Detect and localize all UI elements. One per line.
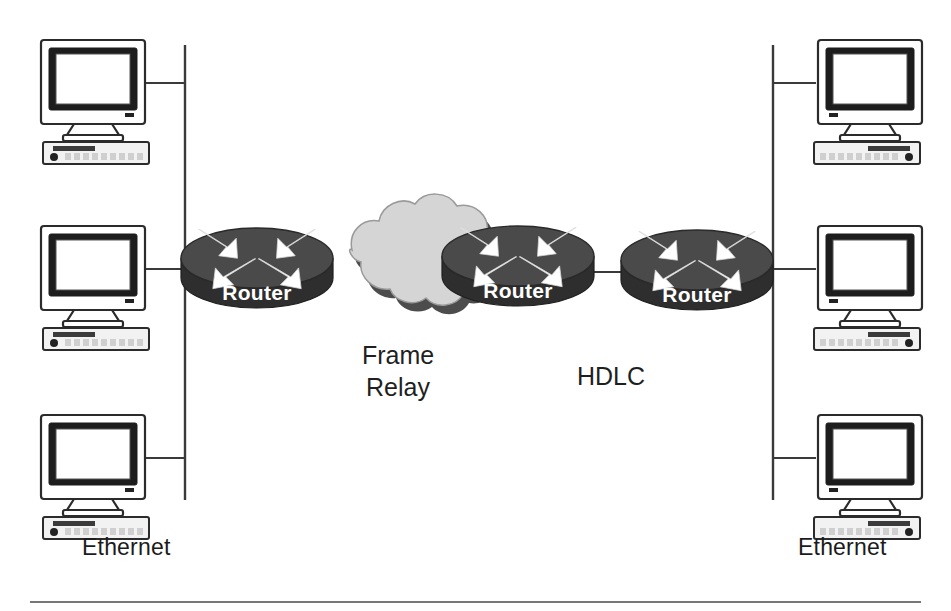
router-left[interactable]: Router xyxy=(181,228,333,308)
workstation-icon xyxy=(814,40,922,164)
frame-relay-label-line2: Relay xyxy=(366,373,430,401)
topology-svg: Frame Relay Router Router Router HDLC xyxy=(0,0,951,611)
frame-relay-label-line1: Frame xyxy=(362,341,434,369)
left-ethernet-label: Ethernet xyxy=(82,534,171,560)
pc-left-middle[interactable] xyxy=(41,226,149,350)
workstation-icon xyxy=(41,415,149,539)
router-left-label: Router xyxy=(222,281,291,304)
network-diagram-canvas: Frame Relay Router Router Router HDLC xyxy=(0,0,951,611)
router-right-label: Router xyxy=(662,283,731,306)
router-middle[interactable]: Router xyxy=(442,226,594,306)
pc-left-top[interactable] xyxy=(41,40,149,164)
workstation-icon xyxy=(814,226,922,350)
right-ethernet-label: Ethernet xyxy=(798,534,887,560)
workstation-icon xyxy=(814,415,922,539)
pc-right-top[interactable] xyxy=(814,40,922,164)
workstation-icon xyxy=(41,226,149,350)
router-right[interactable]: Router xyxy=(621,230,773,310)
pc-right-middle[interactable] xyxy=(814,226,922,350)
pc-left-bottom[interactable] xyxy=(41,415,149,539)
router-middle-label: Router xyxy=(483,279,552,302)
hdlc-link-label: HDLC xyxy=(577,362,645,390)
pc-right-bottom[interactable] xyxy=(814,415,922,539)
workstation-icon xyxy=(41,40,149,164)
